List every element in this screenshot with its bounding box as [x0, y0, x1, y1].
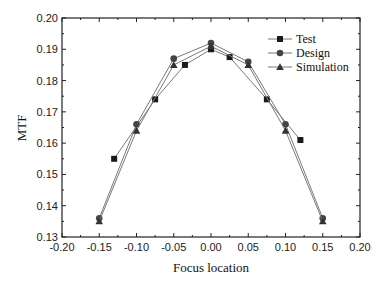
legend: TestDesignSimulation [268, 32, 349, 74]
legend-item-design: Design [268, 46, 330, 60]
y-tick-label: 0.16 [37, 137, 58, 149]
legend-label: Test [296, 32, 316, 46]
legend-item-test: Test [268, 32, 316, 46]
x-tick-label: -0.05 [161, 241, 186, 253]
x-tick-label: -0.10 [124, 241, 149, 253]
y-tick-label: 0.20 [37, 12, 58, 24]
x-tick-label: 0.20 [349, 241, 370, 253]
y-tick-label: 0.14 [37, 200, 58, 212]
x-tick-label: 0.10 [275, 241, 296, 253]
series-test [111, 46, 303, 162]
mtf-chart: -0.20-0.15-0.10-0.050.000.050.100.150.20… [0, 0, 388, 287]
y-tick-label: 0.15 [37, 168, 58, 180]
x-tick-label: 0.15 [312, 241, 333, 253]
y-tick-label: 0.13 [37, 231, 58, 243]
x-tick-label: 0.00 [200, 241, 221, 253]
x-tick-label: -0.15 [87, 241, 112, 253]
y-tick-label: 0.17 [37, 106, 58, 118]
x-tick-label: 0.05 [238, 241, 259, 253]
x-axis-title: Focus location [173, 260, 250, 275]
legend-label: Design [296, 46, 330, 60]
y-axis-title: MTF [14, 115, 29, 142]
legend-item-simulation: Simulation [268, 60, 349, 74]
y-tick-label: 0.19 [37, 43, 58, 55]
series-simulation [95, 42, 326, 224]
y-tick-label: 0.18 [37, 75, 58, 87]
legend-label: Simulation [296, 60, 349, 74]
